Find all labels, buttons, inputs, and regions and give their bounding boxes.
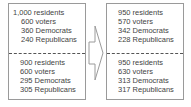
residents-count: 950 residents [118,8,174,17]
voters-count: 600 voters [20,67,76,76]
republicans-count: 240 Republicans [13,35,77,44]
democrats-count: 295 Democrats [20,76,76,85]
residents-count: 950 residents [118,58,174,67]
democrats-count: 313 Democrats [118,76,174,85]
after-district-b: 950 residents 630 voters 313 Democrats 3… [118,58,174,94]
after-district-a: 950 residents 570 voters 342 Democrats 2… [118,8,174,44]
before-district-a: 1,000 residents 600 voters 360 Democrats… [13,8,77,44]
republicans-count: 305 Republicans [20,85,76,94]
republicans-count: 228 Republicans [118,35,174,44]
before-panel: 1,000 residents 600 voters 360 Democrats… [8,3,86,100]
residents-count: 1,000 residents [13,8,77,17]
right-arrow-icon [88,25,104,81]
before-district-b: 900 residents 600 voters 295 Democrats 3… [20,58,76,94]
after-panel: 950 residents 570 voters 342 Democrats 2… [106,3,184,100]
residents-count: 900 residents [20,58,76,67]
voters-count: 630 voters [118,67,174,76]
voters-count: 570 voters [118,17,174,26]
democrats-count: 342 Democrats [118,26,174,35]
voters-count: 600 voters [13,17,77,26]
democrats-count: 360 Democrats [13,26,77,35]
district-boundary [9,53,85,54]
district-boundary [107,53,183,54]
republicans-count: 317 Republicans [118,85,174,94]
